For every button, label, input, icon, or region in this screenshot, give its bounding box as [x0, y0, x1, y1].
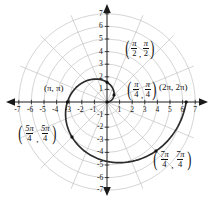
x-tick-label--1: -1 — [90, 106, 96, 114]
data-point-0 — [113, 94, 116, 97]
comma-separator: , — [138, 50, 142, 59]
x-tick-label-1: 1 — [118, 106, 122, 114]
y-tick-label-1: 1 — [99, 85, 103, 93]
x-tick-label--4: -4 — [52, 106, 58, 114]
y-tick-label--7: -7 — [97, 186, 103, 194]
x-axis-right-arrow-icon — [199, 98, 208, 106]
y-tick-label-7: 7 — [99, 10, 103, 18]
x-tick-label-7: 7 — [193, 106, 197, 114]
x-tick-label--3: -3 — [65, 106, 71, 114]
comma-separator: , — [140, 91, 144, 100]
open-paren: ( — [18, 125, 22, 141]
data-point-3 — [71, 135, 74, 138]
close-paren: ) — [151, 40, 155, 56]
x-tick-label-6: 6 — [181, 106, 185, 114]
x-tick-label--5: -5 — [40, 106, 46, 114]
y-tick-label-6: 6 — [99, 22, 103, 30]
close-paren: ) — [153, 81, 157, 97]
y-tick-label--6: -6 — [97, 174, 103, 182]
label-seven-pi-over-4: ( 7π 4 , 7π 4 ) — [152, 150, 193, 169]
y-tick-label-4: 4 — [99, 48, 103, 56]
x-tick-label--7: -7 — [14, 106, 20, 114]
x-tick-label-4: 4 — [155, 106, 159, 114]
polar-spiral-figure: -7-6-5-4-3-2-112345677654321-1-2-3-4-5-6… — [0, 0, 214, 199]
data-point-2 — [66, 101, 69, 104]
fraction-seven-pi-over-4-right: 7π 4 — [174, 150, 186, 169]
fraction-pi-over-2-left: π 2 — [131, 39, 138, 58]
open-paren: ( — [127, 81, 131, 97]
y-tick-label--4: -4 — [97, 148, 103, 156]
label-two-pi-two-pi: (2π, 2π) — [159, 83, 188, 92]
y-tick-label--1: -1 — [97, 111, 103, 119]
data-point-1 — [106, 81, 109, 84]
y-tick-label-5: 5 — [99, 35, 103, 43]
y-tick-label--2: -2 — [97, 123, 103, 131]
open-paren: ( — [153, 151, 157, 167]
close-paren: ) — [187, 151, 191, 167]
fraction-seven-pi-over-4-left: 7π 4 — [159, 150, 171, 169]
label-five-pi-over-4: ( 5π 4 , 5π 4 ) — [17, 124, 58, 143]
y-tick-label-2: 2 — [99, 73, 103, 81]
x-tick-label--6: -6 — [27, 106, 33, 114]
x-tick-label-2: 2 — [130, 106, 134, 114]
y-axis-up-arrow-icon — [103, 4, 111, 13]
fraction-pi-over-4-left: π 4 — [133, 80, 140, 99]
x-tick-label-5: 5 — [168, 106, 172, 114]
data-point-5 — [185, 101, 188, 104]
y-axis-down-arrow-icon — [103, 187, 111, 196]
close-paren: ) — [52, 125, 56, 141]
x-tick-label--2: -2 — [77, 106, 83, 114]
label-pi-pi: (π, π) — [44, 84, 64, 93]
comma-separator: , — [35, 135, 39, 144]
label-pi-over-4: ( π 4 , π 4 ) — [126, 80, 158, 99]
y-tick-label--3: -3 — [97, 136, 103, 144]
y-tick-label-3: 3 — [99, 60, 103, 68]
data-point-6 — [106, 101, 109, 104]
x-tick-label-3: 3 — [143, 106, 147, 114]
fraction-pi-over-2-right: π 2 — [142, 39, 149, 58]
open-paren: ( — [125, 40, 129, 56]
comma-separator: , — [170, 161, 174, 170]
label-pi-over-2: ( π 2 , π 2 ) — [124, 39, 156, 58]
y-tick-label--5: -5 — [97, 161, 103, 169]
fraction-pi-over-4-right: π 4 — [144, 80, 151, 99]
fraction-five-pi-over-4-right: 5π 4 — [39, 124, 51, 143]
fraction-five-pi-over-4-left: 5π 4 — [24, 124, 36, 143]
